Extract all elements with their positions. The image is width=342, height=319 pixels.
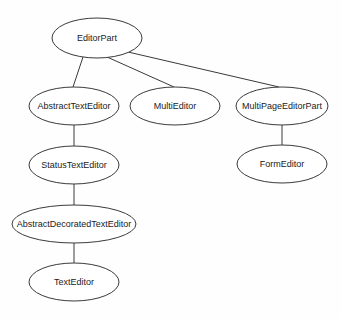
node-label: EditorPart [77, 33, 118, 43]
node-editor-part: EditorPart [52, 18, 142, 58]
edge-editor-part-to-multi-editor [107, 57, 174, 87]
node-label: FormEditor [260, 159, 305, 169]
node-label: StatusTextEditor [41, 160, 107, 170]
node-label: MultiPageEditorPart [242, 101, 323, 111]
node-label: MultiEditor [154, 101, 197, 111]
node-label: TextEditor [54, 277, 94, 287]
node-abstract-decorated-text-editor: AbstractDecoratedTextEditor [12, 205, 136, 243]
nodes-layer: EditorPartAbstractTextEditorMultiEditorM… [12, 18, 328, 301]
edge-editor-part-to-multi-page-editor-part [128, 52, 279, 87]
node-multi-page-editor-part: MultiPageEditorPart [236, 87, 328, 125]
node-label: AbstractDecoratedTextEditor [17, 219, 132, 229]
node-label: AbstractTextEditor [37, 101, 110, 111]
node-multi-editor: MultiEditor [130, 87, 220, 125]
class-hierarchy-diagram: EditorPartAbstractTextEditorMultiEditorM… [0, 0, 342, 319]
diagram-canvas: EditorPartAbstractTextEditorMultiEditorM… [0, 0, 342, 319]
node-status-text-editor: StatusTextEditor [29, 146, 119, 184]
node-form-editor: FormEditor [237, 145, 327, 183]
edge-editor-part-to-abstract-text-editor [73, 57, 83, 87]
node-abstract-text-editor: AbstractTextEditor [29, 87, 119, 125]
node-text-editor: TextEditor [29, 263, 119, 301]
